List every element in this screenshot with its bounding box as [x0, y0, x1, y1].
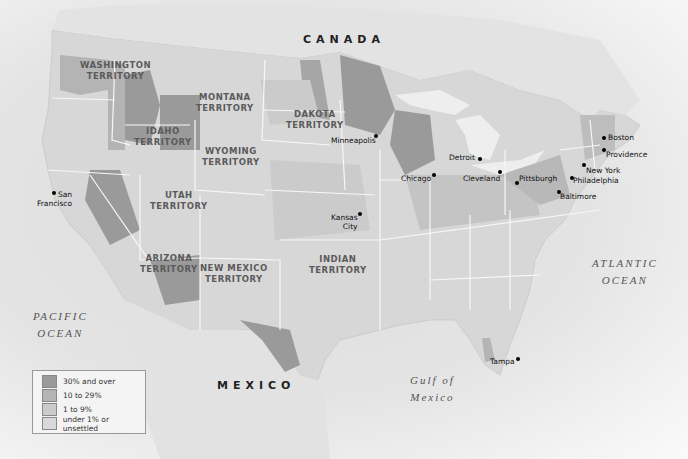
territory-label-utah: UTAHTERRITORY — [150, 190, 208, 212]
city-marker-detroit — [478, 157, 482, 161]
city-label-san-francisco: SanFrancisco — [37, 190, 72, 208]
legend-item-10-to-29: 10 to 29% — [42, 389, 102, 402]
water-label-gulf: Gulf ofMexico — [410, 372, 455, 406]
city-label-minneapolis: Minneapolis — [331, 137, 376, 145]
city-label-tampa: Tampa — [490, 358, 515, 366]
city-marker-tampa — [516, 357, 520, 361]
water-label-pacific: PACIFICOCEAN — [33, 308, 88, 342]
legend-item-30-and-over: 30% and over — [42, 375, 115, 388]
city-label-kansas-city: KansasCity — [331, 213, 358, 231]
legend-item-under-1: under 1% or unsettled — [42, 417, 145, 430]
city-label-chicago: Chicago — [401, 175, 431, 183]
city-marker-boston — [602, 136, 606, 140]
territory-label-idaho: IDAHOTERRITORY — [134, 126, 192, 148]
legend-swatch — [42, 375, 57, 388]
territory-label-indian: INDIANTERRITORY — [309, 254, 367, 276]
city-label-cleveland: Cleveland — [463, 175, 500, 183]
city-label-detroit: Detroit — [449, 154, 475, 162]
country-label-mexico: MEXICO — [217, 380, 295, 391]
map: CANADA MEXICO WASHINGTONTERRITORY MONTAN… — [0, 0, 688, 459]
territory-label-wyoming: WYOMINGTERRITORY — [202, 146, 260, 168]
city-label-new-york: New York — [586, 167, 620, 175]
map-legend: 30% and over 10 to 29% 1 to 9% under 1% … — [32, 370, 146, 434]
territory-label-montana: MONTANATERRITORY — [196, 92, 254, 114]
legend-swatch — [42, 417, 57, 430]
city-label-providence: Providence — [606, 151, 647, 159]
city-label-boston: Boston — [608, 134, 634, 142]
territory-label-arizona: ARIZONATERRITORY — [140, 253, 198, 275]
territory-label-dakota: DAKOTATERRITORY — [286, 109, 344, 131]
city-marker-kansas-city — [358, 212, 362, 216]
legend-swatch — [42, 389, 57, 402]
city-label-pittsburgh: Pittsburgh — [519, 175, 557, 183]
city-label-baltimore: Baltimore — [560, 193, 596, 201]
water-label-atlantic: ATLANTICOCEAN — [592, 255, 658, 289]
territory-label-new-mexico: NEW MEXICOTERRITORY — [200, 263, 268, 285]
country-label-canada: CANADA — [303, 34, 385, 45]
city-label-philadelphia: Philadelphia — [573, 177, 619, 185]
city-marker-chicago — [432, 173, 436, 177]
legend-swatch — [42, 403, 57, 416]
territory-label-washington: WASHINGTONTERRITORY — [80, 60, 151, 82]
